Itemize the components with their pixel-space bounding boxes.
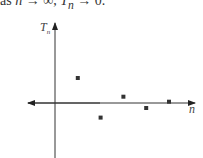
scatter-plot [0,0,203,158]
data-point [167,100,171,104]
data-point [121,95,125,99]
data-point [144,106,148,110]
data-points [76,76,171,120]
data-point [76,76,80,80]
data-point [99,116,103,120]
x-axis-label: n [189,102,195,117]
y-axis-label: Tn [40,20,50,36]
